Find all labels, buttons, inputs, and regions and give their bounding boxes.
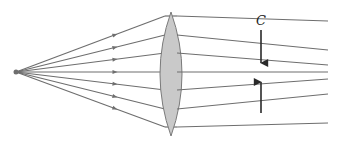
- lens-diagram: C: [0, 0, 342, 143]
- refracted-ray: [177, 123, 328, 127]
- ray-direction-arrow-icon: [112, 82, 117, 87]
- refracted-ray: [177, 35, 328, 50]
- ray-direction-arrow-icon: [113, 70, 118, 74]
- refracted-ray: [177, 94, 328, 109]
- diagram-canvas: [0, 0, 342, 143]
- incident-ray: [16, 72, 165, 90]
- incident-ray: [16, 16, 165, 72]
- label-c: C: [256, 14, 266, 27]
- point-source: [14, 70, 19, 75]
- incident-ray: [16, 53, 165, 72]
- incident-rays: [16, 16, 177, 127]
- incident-ray: [16, 72, 165, 127]
- converging-lens: [160, 12, 182, 136]
- ray-direction-arrow-icon: [112, 32, 118, 38]
- incident-ray: [16, 35, 165, 72]
- refracted-ray: [177, 79, 328, 90]
- incident-ray: [16, 72, 165, 109]
- refracted-rays: [177, 16, 328, 127]
- refracted-ray: [177, 53, 328, 65]
- refracted-ray: [177, 16, 328, 21]
- ray-direction-arrow-icon: [112, 106, 118, 111]
